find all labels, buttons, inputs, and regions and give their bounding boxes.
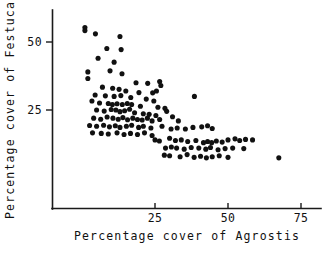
- data-point: [128, 95, 133, 100]
- data-point: [122, 108, 127, 113]
- data-point: [205, 123, 210, 128]
- data-point: [167, 153, 172, 158]
- data-point: [173, 138, 178, 143]
- data-point: [112, 94, 117, 99]
- data-point: [199, 124, 204, 129]
- y-tick-label: 25: [27, 103, 42, 117]
- data-point: [193, 138, 198, 143]
- x-tick-label: 50: [221, 211, 236, 225]
- data-point: [189, 145, 194, 150]
- data-point: [163, 146, 168, 151]
- data-point: [85, 76, 90, 81]
- data-point: [117, 34, 122, 39]
- data-point: [100, 85, 105, 90]
- data-point: [223, 146, 228, 151]
- data-point: [169, 126, 174, 131]
- data-point: [182, 147, 187, 152]
- data-point: [125, 117, 130, 122]
- data-point: [138, 104, 143, 109]
- data-point: [185, 152, 190, 157]
- data-point: [154, 88, 159, 93]
- data-point: [220, 140, 225, 145]
- data-point: [130, 116, 135, 121]
- data-point: [209, 140, 214, 145]
- data-point: [178, 154, 183, 159]
- data-point: [145, 116, 150, 121]
- data-point: [175, 125, 180, 130]
- data-point: [164, 109, 169, 114]
- data-point: [214, 138, 219, 143]
- data-point: [114, 101, 119, 106]
- data-point: [225, 155, 230, 160]
- data-point: [98, 117, 103, 122]
- data-point: [141, 124, 146, 129]
- data-point: [250, 137, 255, 142]
- data-point: [162, 153, 167, 158]
- data-point: [107, 68, 112, 73]
- data-point: [210, 154, 215, 159]
- data-point: [105, 115, 110, 120]
- data-point: [94, 124, 99, 129]
- data-point: [118, 93, 123, 98]
- data-point: [208, 145, 213, 150]
- data-point: [140, 118, 145, 123]
- data-point: [158, 83, 163, 88]
- data-point: [94, 107, 99, 112]
- data-point: [150, 118, 155, 123]
- data-point: [85, 69, 90, 74]
- data-point: [119, 71, 124, 76]
- data-point: [230, 146, 235, 151]
- data-point: [107, 124, 112, 129]
- data-point: [120, 102, 125, 107]
- data-point: [110, 102, 115, 107]
- y-tick-label: 50: [27, 35, 42, 49]
- data-point: [129, 102, 134, 107]
- data-point: [82, 28, 87, 33]
- data-point: [117, 125, 122, 130]
- data-point: [116, 117, 121, 122]
- data-point: [190, 125, 195, 130]
- data-point: [113, 123, 118, 128]
- data-point: [132, 110, 137, 115]
- data-point: [192, 94, 197, 99]
- data-point: [243, 137, 248, 142]
- data-point: [217, 153, 222, 158]
- data-point: [128, 131, 133, 136]
- data-point: [102, 109, 107, 114]
- data-point: [133, 80, 138, 85]
- data-point: [141, 111, 146, 116]
- data-point: [179, 137, 184, 142]
- data-point: [210, 126, 215, 131]
- data-point: [185, 139, 190, 144]
- data-point: [150, 133, 155, 138]
- data-point: [151, 98, 156, 103]
- data-point: [203, 147, 208, 152]
- data-point: [159, 124, 164, 129]
- data-point: [93, 92, 98, 97]
- data-point: [120, 115, 125, 120]
- data-point: [216, 147, 221, 152]
- data-point: [237, 138, 242, 143]
- data-point: [176, 118, 181, 123]
- data-point: [183, 126, 188, 131]
- data-point: [110, 116, 115, 121]
- data-point: [125, 101, 130, 106]
- data-point: [117, 109, 122, 114]
- data-point: [148, 125, 153, 130]
- data-point: [276, 155, 281, 160]
- data-point: [174, 146, 179, 151]
- data-point: [170, 114, 175, 119]
- data-point: [153, 113, 158, 118]
- data-point: [135, 117, 140, 122]
- data-point: [196, 146, 201, 151]
- data-point: [91, 116, 96, 121]
- data-point: [198, 154, 203, 159]
- data-point: [99, 131, 104, 136]
- data-point: [155, 105, 160, 110]
- data-point: [101, 123, 106, 128]
- x-tick-label: 75: [294, 211, 309, 225]
- data-point: [152, 137, 157, 142]
- data-point: [93, 31, 98, 36]
- data-point: [136, 125, 141, 130]
- data-point: [89, 98, 94, 103]
